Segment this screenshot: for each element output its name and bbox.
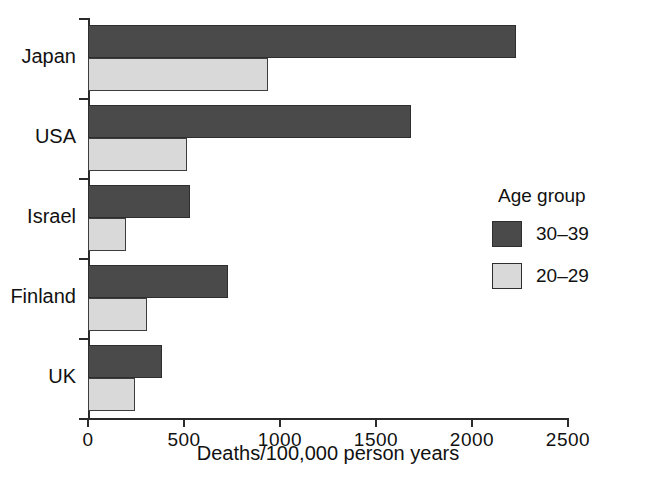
legend-item: 30–39	[492, 221, 642, 247]
bar-japan-30-39	[88, 25, 516, 58]
bar-uk-30-39	[88, 345, 162, 378]
x-tick-mark	[375, 418, 377, 427]
category-label-israel: Israel	[0, 205, 76, 228]
legend-swatch	[492, 221, 522, 247]
bar-japan-20-29	[88, 58, 268, 91]
legend-item: 20–29	[492, 263, 642, 289]
category-label-usa: USA	[0, 125, 76, 148]
y-tick-mark	[79, 258, 88, 260]
legend-swatch	[492, 263, 522, 289]
bar-israel-30-39	[88, 185, 190, 218]
y-tick-mark	[79, 178, 88, 180]
x-axis-title: Deaths/100,000 person years	[88, 442, 568, 465]
x-axis-line	[88, 418, 568, 420]
legend-title: Age group	[498, 185, 642, 207]
legend-label: 30–39	[536, 223, 589, 245]
category-label-uk: UK	[0, 365, 76, 388]
bar-finland-20-29	[88, 298, 147, 331]
bar-israel-20-29	[88, 218, 126, 251]
y-tick-mark	[79, 98, 88, 100]
category-label-finland: Finland	[0, 285, 76, 308]
y-tick-mark	[79, 418, 88, 420]
y-tick-mark	[79, 338, 88, 340]
legend: Age group 30–3920–29	[492, 185, 642, 305]
category-label-japan: Japan	[0, 45, 76, 68]
x-tick-mark	[183, 418, 185, 427]
bar-chart: 05001000150020002500 JapanUSAIsraelFinla…	[0, 0, 650, 500]
x-tick-mark	[471, 418, 473, 427]
legend-label: 20–29	[536, 265, 589, 287]
bar-usa-20-29	[88, 138, 187, 171]
y-tick-mark	[79, 18, 88, 20]
bar-usa-30-39	[88, 105, 411, 138]
bar-finland-30-39	[88, 265, 228, 298]
x-tick-mark	[279, 418, 281, 427]
x-tick-mark	[567, 418, 569, 427]
bar-uk-20-29	[88, 378, 135, 411]
